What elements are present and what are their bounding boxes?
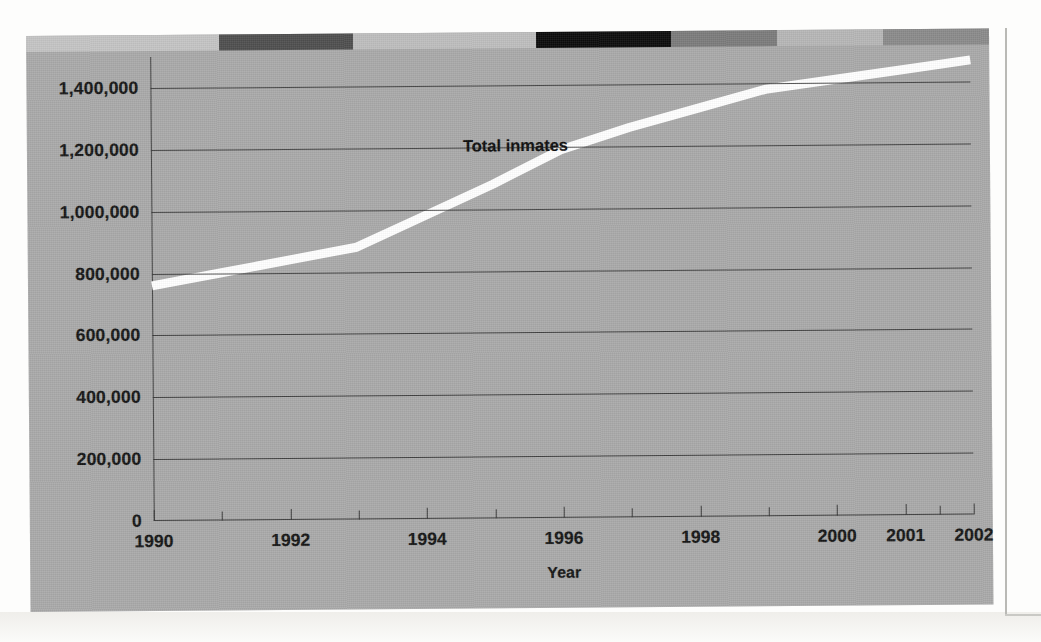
x-tick-label: 1998 <box>681 527 720 548</box>
x-tick-label: 2000 <box>818 525 857 546</box>
series-annotation-label: Total inmates <box>463 136 568 156</box>
x-tick-label: 1996 <box>544 528 583 549</box>
x-axis-title: Year <box>154 561 974 585</box>
segment-mid-gray-2 <box>883 28 989 45</box>
y-tick-label: 200,000 <box>77 449 142 471</box>
scanned-page: 0200,000400,000600,000800,0001,000,0001,… <box>0 0 1041 642</box>
plot-area <box>150 51 974 521</box>
decorative-color-strip <box>26 28 989 52</box>
x-tick-major <box>905 504 906 515</box>
x-tick-major <box>154 510 155 521</box>
y-tick-label: 400,000 <box>76 387 141 409</box>
x-tick-label: 1990 <box>134 531 173 552</box>
y-tick-label: 600,000 <box>76 325 141 347</box>
x-tick-minor <box>495 509 496 518</box>
x-tick-minor <box>222 511 223 520</box>
page-edge-artifact <box>1005 28 1007 616</box>
x-tick-minor <box>769 507 770 516</box>
segment-mid-gray <box>671 30 777 47</box>
segment-black <box>536 31 671 48</box>
y-tick-label: 1,200,000 <box>59 139 139 161</box>
segment-light-gray-3 <box>777 29 883 46</box>
x-tick-major <box>427 508 428 519</box>
x-tick-major <box>700 506 701 517</box>
y-tick-label: 800,000 <box>75 263 140 285</box>
total-inmates-line <box>150 51 974 521</box>
x-tick-label: 2002 <box>954 524 993 545</box>
segment-light-gray-2 <box>353 32 536 49</box>
x-axis-labels: 19901992199419961998200020012002 <box>154 525 974 561</box>
y-axis-labels: 0200,000400,000600,000800,0001,000,0001,… <box>26 57 142 522</box>
x-tick-label: 1992 <box>271 530 310 551</box>
x-tick-major <box>290 509 291 520</box>
x-tick-minor <box>632 508 633 517</box>
chart-panel: 0200,000400,000600,000800,0001,000,0001,… <box>26 28 993 612</box>
scan-shadow <box>0 612 1041 642</box>
y-tick-label: 1,400,000 <box>59 78 139 100</box>
segment-light-gray-1 <box>26 34 219 52</box>
x-tick-label: 1994 <box>408 529 447 550</box>
x-tick-major <box>564 507 565 518</box>
y-tick-label: 1,000,000 <box>60 201 140 223</box>
x-tick-minor <box>359 510 360 519</box>
page-edge-artifact-corner <box>1005 614 1041 616</box>
x-tick-major <box>837 505 838 516</box>
segment-dark-gray <box>219 33 354 50</box>
x-tick-label: 2001 <box>886 525 925 546</box>
y-tick-label: 0 <box>132 511 142 532</box>
x-tick-minor <box>940 506 941 515</box>
x-tick-major <box>974 504 975 515</box>
